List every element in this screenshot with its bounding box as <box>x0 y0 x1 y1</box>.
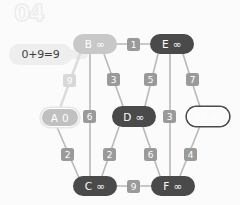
edge-b-e-weight-label: 1 <box>131 40 137 50</box>
node-c-label: C ∞ <box>85 180 106 192</box>
edge-b-d-weight: 3 <box>107 73 120 86</box>
edge-d-f-weight-label: 6 <box>148 150 154 160</box>
node-d[interactable]: D ∞ <box>112 106 156 127</box>
edge-c-f-weight: 9 <box>127 180 140 193</box>
edge-e-f-weight-label: 3 <box>167 112 173 122</box>
node-e[interactable]: E ∞ <box>150 34 194 54</box>
graph-edges-layer <box>0 0 240 205</box>
edge-b-c-weight: 6 <box>83 110 96 123</box>
relaxation-equation-callout: 0+9=9 <box>9 44 72 65</box>
node-a-label: A 0 <box>51 112 69 124</box>
edge-a-c-weight-label: 2 <box>65 150 71 160</box>
edge-g-f-weight: 4 <box>184 148 197 161</box>
node-b[interactable]: B ∞ <box>73 34 117 54</box>
edge-e-d-weight: 5 <box>144 73 157 86</box>
edge-a-c-weight: 2 <box>61 148 74 161</box>
edge-c-f-weight-label: 9 <box>131 182 137 192</box>
edge-d-f-weight: 6 <box>144 148 157 161</box>
edge-b-d-weight-label: 3 <box>111 75 117 85</box>
node-e-label: E ∞ <box>162 38 182 50</box>
node-b-label: B ∞ <box>85 38 106 50</box>
edge-b-e-weight: 1 <box>127 38 140 51</box>
node-d-label: D ∞ <box>123 111 144 123</box>
node-g-label: G ∞ <box>197 111 218 123</box>
graph-visualization-canvas: 04 0+9=9 A 0B ∞C ∞D ∞E ∞F ∞G ∞ 193657322… <box>0 0 240 205</box>
edge-e-d-weight-label: 5 <box>148 75 154 85</box>
edge-b-c-weight-label: 6 <box>87 112 93 122</box>
edge-d-c-weight-label: 2 <box>107 150 113 160</box>
node-c[interactable]: C ∞ <box>73 176 117 196</box>
node-f-label: F ∞ <box>163 180 182 192</box>
node-g[interactable]: G ∞ <box>187 107 229 126</box>
node-a[interactable]: A 0 <box>41 108 79 127</box>
edge-d-c-weight: 2 <box>103 148 116 161</box>
edge-e-g-weight: 7 <box>186 73 199 86</box>
edge-a-b-weight-label: 9 <box>67 76 73 86</box>
edge-a-b-weight: 9 <box>63 74 76 87</box>
edge-e-f-weight: 3 <box>163 110 176 123</box>
edge-e-g-weight-label: 7 <box>190 75 196 85</box>
node-f[interactable]: F ∞ <box>151 176 195 196</box>
edge-g-f-weight-label: 4 <box>188 150 194 160</box>
